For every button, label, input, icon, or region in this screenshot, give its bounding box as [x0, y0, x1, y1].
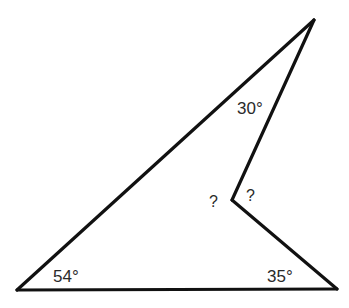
angle-label-bottom-left: 54° [53, 267, 79, 286]
edge-bottom-base [17, 289, 337, 290]
angle-label-bottom-right: 35° [267, 267, 293, 286]
geometry-diagram: 30° ? ? 54° 35° [0, 0, 349, 308]
angle-label-top: 30° [237, 99, 263, 118]
edge-bottom-left-to-top [17, 20, 314, 290]
angle-label-concave-right: ? [246, 187, 255, 204]
angle-label-concave-left: ? [209, 193, 218, 210]
